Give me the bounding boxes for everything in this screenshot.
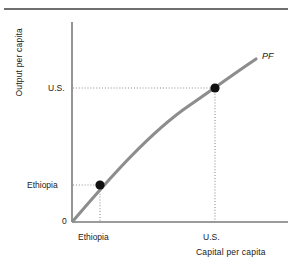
y-tick-label-ethiopia: Ethiopia <box>27 180 58 190</box>
plot-area <box>0 0 300 269</box>
y-tick-label-us: U.S. <box>48 83 65 93</box>
x-tick-label-us: U.S. <box>203 232 220 242</box>
data-point-us <box>210 83 219 92</box>
curve-label-pf: PF <box>262 51 274 61</box>
x-tick-label-ethiopia: Ethiopia <box>78 232 109 242</box>
origin-label: 0 <box>62 216 67 226</box>
production-function-figure: Output per capita Capital per capita U.S… <box>0 0 300 269</box>
y-axis-title: Output per capita <box>14 28 24 97</box>
x-axis-title: Capital per capita <box>196 247 266 257</box>
data-point-ethiopia <box>95 180 104 189</box>
